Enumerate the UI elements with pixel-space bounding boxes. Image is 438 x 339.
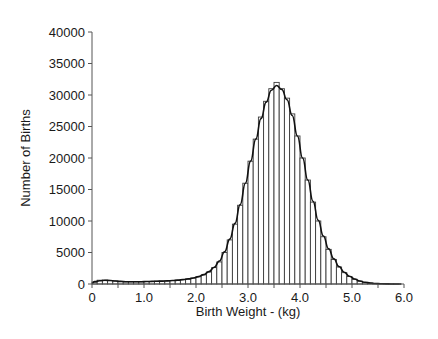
birth-weight-histogram: 0500010000150002000025000300003500040000… xyxy=(0,0,438,339)
y-tick-label: 20000 xyxy=(49,151,85,166)
histogram-bar xyxy=(284,98,289,284)
x-tick-label: 1.0 xyxy=(135,290,153,305)
y-tick-label: 40000 xyxy=(49,25,85,40)
y-tick-label: 35000 xyxy=(49,56,85,71)
x-tick-label: 5.0 xyxy=(343,290,361,305)
histogram-bar xyxy=(253,139,258,284)
x-axis-title: Birth Weight - (kg) xyxy=(196,304,301,319)
histogram-bar xyxy=(238,205,243,284)
histogram-bar xyxy=(206,272,211,284)
histogram-bar xyxy=(290,114,295,284)
y-axis-title: Number of Births xyxy=(18,109,33,207)
x-tick-label: 3.0 xyxy=(239,290,257,305)
histogram-bar xyxy=(300,158,305,284)
histogram-bar xyxy=(331,259,336,284)
histogram-bar xyxy=(227,240,232,284)
histogram-bar xyxy=(232,224,237,284)
histogram-bar xyxy=(258,117,263,284)
y-tick-label: 5000 xyxy=(56,245,85,260)
histogram-bar xyxy=(279,89,284,284)
x-tick-label: 0 xyxy=(88,290,95,305)
histogram-bar xyxy=(243,183,248,284)
y-axis-ticks: 0500010000150002000025000300003500040000 xyxy=(49,25,92,292)
histogram-bar xyxy=(222,253,227,285)
x-axis-ticks: 01.02.03.04.05.06.0 xyxy=(88,284,413,305)
histogram-bar xyxy=(217,262,222,284)
x-tick-label: 2.0 xyxy=(187,290,205,305)
y-tick-label: 25000 xyxy=(49,119,85,134)
histogram-bar xyxy=(212,268,217,284)
x-tick-label: 4.0 xyxy=(291,290,309,305)
histogram-bar xyxy=(321,237,326,284)
y-tick-label: 15000 xyxy=(49,182,85,197)
histogram-bar xyxy=(196,277,201,284)
histogram-bar xyxy=(264,101,269,284)
histogram-bar xyxy=(274,82,279,284)
x-tick-label: 6.0 xyxy=(395,290,413,305)
histogram-bar xyxy=(295,136,300,284)
histogram-bar xyxy=(316,221,321,284)
y-tick-label: 30000 xyxy=(49,88,85,103)
histogram-bar xyxy=(310,202,315,284)
histogram-bar xyxy=(326,249,331,284)
histogram-bar xyxy=(201,275,206,284)
y-tick-label: 0 xyxy=(78,277,85,292)
y-tick-label: 10000 xyxy=(49,214,85,229)
histogram-bar xyxy=(269,89,274,284)
histogram-bar xyxy=(248,161,253,284)
histogram-bar xyxy=(305,180,310,284)
